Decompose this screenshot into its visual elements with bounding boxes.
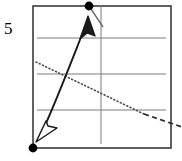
figure-container: 5 — [0, 0, 182, 161]
dotted-descending-line — [36, 62, 144, 114]
dashed-descending-line-extension — [144, 114, 182, 127]
arrowhead-filled-top-right — [80, 16, 95, 39]
endpoint-dot-top — [85, 2, 94, 11]
endpoint-dot-bottom — [29, 144, 38, 153]
arrowhead-open-bottom-left — [36, 121, 57, 142]
plot-canvas — [0, 0, 182, 161]
